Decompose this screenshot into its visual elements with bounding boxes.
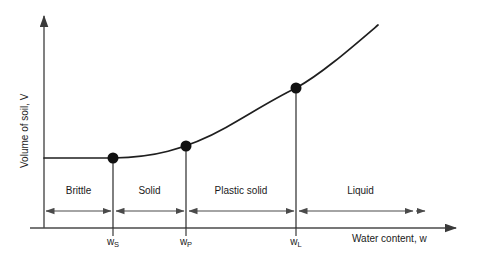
data-point-plastic-limit: [181, 141, 192, 152]
tick-label-liquid-limit: wL: [276, 237, 316, 247]
tick-label-shrinkage-limit-subscript: S: [114, 240, 119, 249]
region-label-brittle: Brittle: [44, 186, 113, 196]
region-label-solid: Solid: [113, 186, 186, 196]
tick-label-shrinkage-limit: wS: [93, 237, 133, 247]
tick-label-plastic-limit-subscript: P: [187, 240, 192, 249]
tick-label-plastic-limit: wP: [166, 237, 206, 247]
y-axis-title: Volume of soil, V: [20, 94, 30, 168]
region-label-liquid: Liquid: [296, 186, 425, 196]
tick-label-liquid-limit-subscript: L: [298, 240, 302, 249]
chart-canvas: [0, 0, 488, 257]
volume-curve: [44, 25, 378, 158]
soil-volume-water-content-diagram: Volume of soil, V Water content, w Britt…: [0, 0, 488, 257]
data-point-liquid-limit: [291, 83, 302, 94]
region-label-plastic-solid: Plastic solid: [186, 186, 296, 196]
x-axis-title: Water content, w: [352, 234, 427, 244]
tick-label-liquid-limit-base: w: [290, 236, 297, 247]
data-point-shrinkage-limit: [108, 153, 119, 164]
